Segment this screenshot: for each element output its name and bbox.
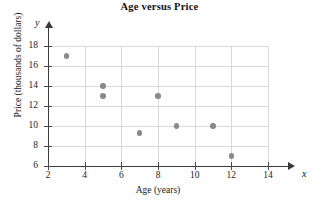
data-point (137, 130, 143, 136)
x-axis-variable-label: x (302, 168, 306, 179)
y-axis-tick (44, 66, 52, 67)
data-point (64, 53, 70, 59)
gridline-vertical (121, 46, 122, 166)
x-axis-tick (85, 162, 86, 170)
gridline-vertical (85, 46, 86, 166)
y-axis-tick-label: 12 (22, 100, 38, 110)
data-point (155, 93, 161, 99)
y-axis-tick-label: 14 (22, 80, 38, 90)
chart-container: Age versus Price x y Age (years) Price (… (0, 0, 319, 202)
y-axis-tick (44, 126, 52, 127)
y-axis-tick-label: 16 (22, 60, 38, 70)
y-axis-arrow-icon (45, 21, 53, 28)
chart-title: Age versus Price (0, 1, 319, 12)
gridline-vertical (231, 46, 232, 166)
data-point (229, 153, 235, 159)
x-axis-tick-label: 12 (218, 170, 244, 180)
x-axis-tick (268, 162, 269, 170)
data-point (100, 93, 106, 99)
gridline-vertical (158, 46, 159, 166)
x-axis-tick-label: 4 (72, 170, 98, 180)
y-axis-variable-label: y (35, 17, 39, 28)
x-axis-tick (48, 162, 49, 170)
y-axis-tick (44, 106, 52, 107)
y-axis-tick (44, 146, 52, 147)
y-axis-tick (44, 86, 52, 87)
data-point (174, 123, 180, 129)
x-axis-tick-label: 14 (255, 170, 281, 180)
y-axis-tick-label: 10 (22, 120, 38, 130)
x-axis-arrow-icon (288, 162, 295, 170)
x-axis-tick-label: 8 (145, 170, 171, 180)
gridline-vertical (268, 46, 269, 166)
x-axis-tick-label: 2 (35, 170, 61, 180)
y-axis-tick-label: 6 (22, 160, 38, 170)
data-point (100, 83, 106, 89)
x-axis-tick (231, 162, 232, 170)
data-point (210, 123, 216, 129)
plot-area (48, 46, 268, 166)
x-axis-tick (195, 162, 196, 170)
x-axis-title: Age (years) (48, 185, 268, 195)
y-axis-tick (44, 46, 52, 47)
x-axis-tick-label: 6 (108, 170, 134, 180)
y-axis-tick-label: 18 (22, 40, 38, 50)
x-axis-tick (158, 162, 159, 170)
x-axis-tick (121, 162, 122, 170)
x-axis-tick-label: 10 (182, 170, 208, 180)
y-axis-tick-label: 8 (22, 140, 38, 150)
gridline-vertical (195, 46, 196, 166)
